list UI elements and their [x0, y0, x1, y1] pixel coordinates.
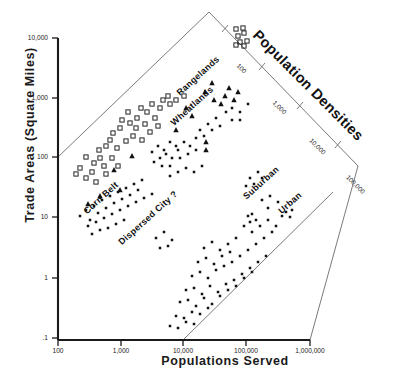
data-point	[119, 209, 122, 212]
data-point	[113, 202, 116, 205]
data-point	[169, 325, 172, 328]
data-point	[97, 212, 100, 215]
data-point	[135, 201, 138, 204]
data-point	[120, 118, 124, 122]
data-point	[153, 116, 157, 120]
data-point	[111, 213, 114, 216]
data-point	[169, 141, 172, 144]
data-point	[226, 85, 231, 90]
data-point	[213, 263, 216, 266]
data-point	[103, 217, 106, 220]
data-point	[247, 215, 250, 218]
data-point	[233, 279, 236, 282]
data-point	[159, 157, 162, 160]
data-point	[207, 277, 210, 280]
data-point	[223, 265, 226, 268]
data-point	[84, 176, 88, 180]
y-axis-title: Trade Areas (Square Miles)	[23, 45, 37, 225]
data-point	[91, 233, 94, 236]
data-point	[231, 119, 234, 122]
data-point	[251, 231, 254, 234]
data-point	[135, 116, 139, 120]
data-point	[158, 106, 162, 110]
data-point	[267, 207, 270, 210]
data-point	[234, 27, 238, 31]
data-point	[109, 195, 112, 198]
data-point	[199, 271, 202, 274]
data-point	[247, 249, 250, 252]
data-point	[205, 257, 208, 260]
data-point	[161, 98, 165, 102]
data-point	[104, 144, 108, 148]
data-point	[263, 237, 266, 240]
data-point	[157, 145, 160, 148]
data-point	[239, 111, 242, 114]
data-point	[275, 225, 278, 228]
data-point	[291, 209, 294, 212]
data-point	[171, 157, 174, 160]
annotation-urban: Urban	[276, 190, 303, 216]
data-point	[125, 187, 128, 190]
data-point	[195, 149, 198, 152]
data-point	[203, 139, 208, 144]
data-point	[93, 205, 96, 208]
data-point	[94, 180, 98, 184]
data-point	[267, 219, 270, 222]
data-point	[277, 201, 280, 204]
data-point	[116, 164, 120, 168]
density-tick-label: 100	[236, 62, 249, 75]
x-tick-label: 1,000,000	[295, 347, 325, 354]
data-point	[171, 239, 174, 242]
data-point	[151, 151, 154, 154]
data-point	[78, 166, 82, 170]
data-point	[229, 251, 232, 254]
data-point	[191, 275, 194, 278]
data-point	[179, 157, 182, 160]
x-tick-label: 100,000	[234, 347, 258, 354]
data-point	[185, 321, 188, 324]
data-point	[227, 289, 230, 292]
data-point	[249, 221, 252, 224]
data-point	[95, 221, 98, 224]
x-axis-ticks: 100 1,000 10,000 100,000 1,000,000	[52, 340, 325, 354]
data-point	[110, 156, 114, 160]
data-point	[107, 227, 110, 230]
data-point	[215, 269, 218, 272]
data-point	[74, 172, 78, 176]
data-point	[227, 243, 230, 246]
data-point	[231, 107, 234, 110]
data-point	[163, 149, 166, 152]
data-point	[231, 261, 234, 264]
data-point	[92, 161, 96, 165]
data-point	[166, 94, 170, 98]
data-point	[255, 243, 258, 246]
data-point	[115, 146, 119, 150]
data-point	[137, 189, 140, 192]
data-point	[140, 138, 144, 142]
data-point	[90, 170, 94, 174]
data-point	[207, 123, 210, 126]
data-point	[151, 193, 154, 196]
data-point	[105, 207, 108, 210]
data-point	[241, 26, 245, 30]
data-point	[102, 164, 106, 168]
data-point	[225, 283, 228, 286]
y-tick-label: .1	[43, 334, 49, 341]
data-point	[193, 323, 196, 326]
data-point	[169, 175, 172, 178]
data-point	[150, 102, 154, 106]
data-point	[261, 199, 264, 202]
data-point	[235, 285, 238, 288]
data-point	[225, 111, 228, 114]
y-tick-label: 10,000	[28, 34, 49, 41]
annotation-suburban: Suburban	[241, 164, 281, 201]
x-tick-label: 1,000	[113, 347, 130, 354]
data-point	[249, 267, 252, 270]
data-point	[211, 303, 214, 306]
data-point	[219, 125, 222, 128]
density-tick-label: 100,000	[345, 174, 367, 196]
data-point	[87, 225, 90, 228]
data-point	[126, 110, 130, 114]
data-point	[245, 39, 249, 43]
data-point	[133, 183, 136, 186]
